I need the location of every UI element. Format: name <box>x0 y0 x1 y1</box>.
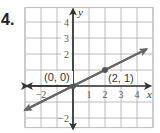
y-tick-label: 4 <box>64 17 69 28</box>
y-tick-label: −2 <box>58 113 69 124</box>
point-label: (0, 0) <box>44 71 70 83</box>
point-label: (2, 1) <box>108 72 134 84</box>
y-tick-label: 3 <box>64 33 69 44</box>
grid-lines <box>25 8 153 128</box>
y-axis-label: y <box>77 6 83 18</box>
coordinate-graph: xy −21234432−2 (0, 0)(2, 1) <box>0 0 160 133</box>
x-axis-label: x <box>146 88 152 100</box>
y-tick-label: 2 <box>64 49 69 60</box>
